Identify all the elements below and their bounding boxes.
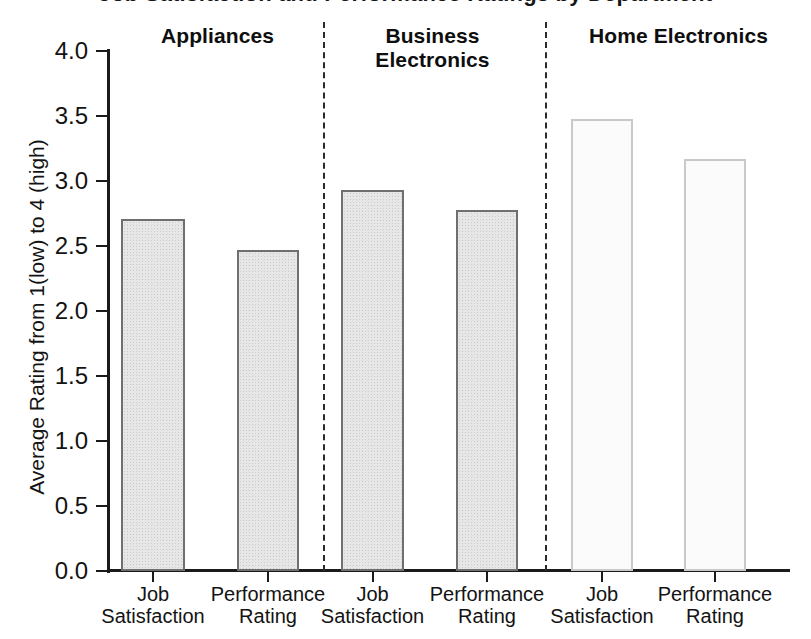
x-tick-mark [372, 571, 374, 582]
plot-area: Average Rating from 1(low) to 4 (high) 4… [0, 0, 811, 639]
y-tick-label: 2.5 [14, 234, 88, 258]
y-tick-mark [96, 50, 108, 52]
y-tick-mark [96, 245, 108, 247]
x-tick-mark [486, 571, 488, 582]
y-tick-label: 0.0 [14, 559, 88, 583]
bar [341, 190, 404, 571]
chart-figure: Job Satisfaction and Performance Ratings… [0, 0, 811, 639]
x-tick-label-line1: Job [137, 583, 169, 605]
group-header-line1: Appliances [120, 24, 315, 48]
group-header-line1: Home Electronics [556, 24, 801, 48]
y-tick-label: 2.0 [14, 299, 88, 323]
y-tick-label: 1.0 [14, 429, 88, 453]
bar [571, 119, 633, 571]
y-tick-label: 0.5 [14, 494, 88, 518]
x-tick-mark [714, 571, 716, 582]
y-tick-label: 3.0 [14, 169, 88, 193]
bar [684, 159, 746, 571]
y-tick-mark [96, 310, 108, 312]
bar [456, 210, 518, 571]
y-tick-label: 4.0 [14, 39, 88, 63]
group-header-home-electronics: Home Electronics [556, 24, 801, 48]
group-separator-line [545, 22, 547, 571]
y-tick-label: 1.5 [14, 364, 88, 388]
bar [121, 219, 185, 571]
x-tick-label-line1: Job [356, 583, 388, 605]
y-tick-mark [96, 570, 108, 572]
group-header-business-electronics: BusinessElectronics [335, 24, 530, 71]
y-tick-mark [96, 505, 108, 507]
x-tick-label-line1: Job [586, 583, 618, 605]
y-tick-label: 3.5 [14, 104, 88, 128]
y-tick-mark [96, 440, 108, 442]
group-separator-line [323, 22, 325, 571]
y-tick-mark [96, 115, 108, 117]
x-tick-mark [152, 571, 154, 582]
y-tick-mark [96, 180, 108, 182]
bar [237, 250, 299, 571]
x-tick-mark [267, 571, 269, 582]
y-tick-mark [96, 375, 108, 377]
group-header-appliances: Appliances [120, 24, 315, 48]
x-tick-label: PerformanceRating [640, 583, 790, 628]
x-tick-label-line1: Performance [658, 583, 773, 605]
x-tick-mark [601, 571, 603, 582]
group-header-line2: Electronics [335, 48, 530, 72]
group-header-line1: Business [335, 24, 530, 48]
x-tick-label-line2: Rating [640, 605, 790, 627]
